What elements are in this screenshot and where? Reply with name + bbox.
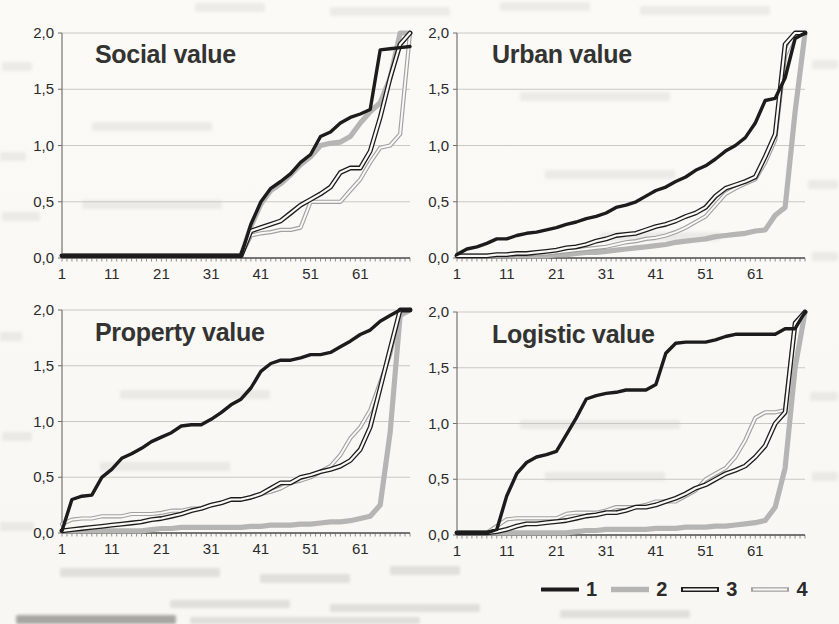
bleed-through-smudge — [170, 600, 290, 608]
bleed-through-smudge — [330, 7, 450, 16]
x-tick-label: 11 — [104, 540, 120, 557]
y-tick-label: 0,5 — [428, 470, 449, 487]
x-tick-label: 21 — [548, 542, 565, 559]
legend-item-3: 3 — [681, 579, 737, 599]
y-tick-label: 0,0 — [428, 249, 449, 266]
y-tick-label: 0,5 — [33, 468, 54, 485]
x-tick-label: 21 — [153, 265, 170, 282]
x-tick-label: 41 — [648, 542, 665, 559]
y-tick-label: 1,5 — [33, 80, 54, 97]
y-tick-label: 1,5 — [428, 80, 449, 97]
legend-label: 1 — [586, 579, 597, 599]
x-tick-label: 61 — [747, 542, 764, 559]
y-tick-label: 0,5 — [33, 193, 54, 210]
legend: 1 2 3 4 — [541, 579, 808, 599]
legend-label: 3 — [726, 579, 737, 599]
y-tick-label: 0,5 — [428, 193, 449, 210]
chart-title-urban: Urban value — [492, 40, 632, 69]
bleed-through-smudge — [640, 6, 770, 15]
y-tick-label: 2,0 — [428, 303, 449, 320]
double-gray-line-sample-icon — [751, 583, 789, 596]
y-tick-label: 0,0 — [33, 249, 54, 266]
bleed-through-smudge — [500, 2, 590, 11]
bleed-through-smudge — [810, 392, 838, 401]
x-tick-label: 31 — [598, 542, 615, 559]
x-tick-label: 41 — [648, 265, 665, 282]
bleed-through-smudge — [812, 472, 838, 481]
chart-title-social: Social value — [95, 40, 236, 69]
y-tick-label: 1,0 — [33, 413, 54, 430]
legend-item-1: 1 — [541, 579, 597, 599]
x-tick-label: 51 — [302, 265, 319, 282]
x-tick-label: 51 — [302, 540, 319, 557]
thick-black-line-sample-icon — [541, 583, 579, 596]
cut-off-caption-smudge — [16, 615, 176, 624]
x-tick-label: 21 — [548, 265, 565, 282]
chart-title-property: Property value — [95, 318, 264, 347]
y-tick-label: 0,0 — [33, 524, 54, 541]
x-tick-label: 41 — [253, 265, 270, 282]
x-tick-label: 61 — [352, 265, 369, 282]
legend-item-2: 2 — [611, 579, 667, 599]
bleed-through-smudge — [195, 3, 265, 12]
y-tick-label: 2,0 — [33, 301, 54, 318]
scanned-page: 0,00,51,01,52,01112131415161 0,00,51,01,… — [0, 0, 839, 624]
x-tick-label: 1 — [58, 540, 66, 557]
y-tick-label: 1,5 — [428, 359, 449, 376]
double-black-line-sample-icon — [681, 583, 719, 596]
y-tick-label: 1,0 — [428, 137, 449, 154]
y-tick-label: 0,0 — [428, 526, 449, 543]
x-tick-label: 61 — [747, 265, 764, 282]
y-tick-label: 2,0 — [33, 24, 54, 41]
thick-gray-line-sample-icon — [611, 583, 649, 596]
bleed-through-smudge — [560, 610, 690, 618]
cut-off-caption-smudge — [190, 617, 420, 624]
x-tick-label: 61 — [352, 540, 369, 557]
legend-label: 4 — [796, 579, 807, 599]
x-tick-label: 51 — [697, 542, 714, 559]
x-tick-label: 41 — [253, 540, 270, 557]
bleed-through-smudge — [330, 604, 480, 612]
bleed-through-smudge — [812, 252, 838, 261]
y-tick-label: 2,0 — [428, 24, 449, 41]
x-tick-label: 1 — [58, 265, 66, 282]
bleed-through-smudge — [812, 60, 838, 69]
x-tick-label: 11 — [499, 542, 515, 559]
x-tick-label: 11 — [499, 265, 515, 282]
x-tick-label: 1 — [453, 265, 461, 282]
y-tick-label: 1,5 — [33, 357, 54, 374]
x-tick-label: 11 — [104, 265, 120, 282]
x-tick-label: 31 — [203, 540, 220, 557]
y-tick-label: 1,0 — [428, 415, 449, 432]
x-tick-label: 31 — [598, 265, 615, 282]
x-tick-label: 51 — [697, 265, 714, 282]
legend-label: 2 — [656, 579, 667, 599]
legend-item-4: 4 — [751, 579, 807, 599]
y-tick-label: 1,0 — [33, 137, 54, 154]
series-1-line — [62, 47, 410, 256]
x-tick-label: 21 — [153, 540, 170, 557]
chart-title-logistic: Logistic value — [492, 320, 655, 349]
x-tick-label: 1 — [453, 542, 461, 559]
x-tick-label: 31 — [203, 265, 220, 282]
